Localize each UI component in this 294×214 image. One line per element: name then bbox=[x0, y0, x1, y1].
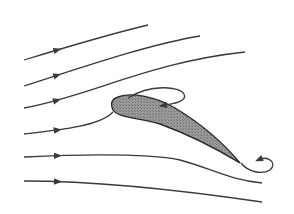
airfoil-shape bbox=[112, 95, 240, 163]
arrow-icon bbox=[254, 155, 264, 164]
airfoil-group bbox=[112, 95, 240, 163]
arrow-icon bbox=[53, 46, 62, 54]
streamline-6 bbox=[24, 181, 262, 202]
streamline-2 bbox=[24, 36, 200, 86]
arrow-icon bbox=[54, 178, 62, 185]
streamline-4 bbox=[24, 112, 113, 134]
arrow-icon bbox=[54, 152, 62, 159]
streamline-5 bbox=[24, 155, 262, 183]
arrow-icon bbox=[52, 96, 61, 104]
streamline-1 bbox=[24, 25, 148, 60]
arrow-icon bbox=[53, 71, 63, 80]
airfoil-streamline-diagram bbox=[0, 0, 294, 214]
